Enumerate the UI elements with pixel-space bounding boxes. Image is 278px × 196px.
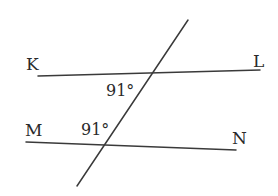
diagram-canvas: K L M N 91° 91° xyxy=(0,0,278,196)
label-k: K xyxy=(26,54,39,74)
geometry-diagram: K L M N 91° 91° xyxy=(0,0,278,196)
label-l: L xyxy=(253,51,264,71)
angle-label-lower: 91° xyxy=(81,120,109,139)
angle-label-upper: 91° xyxy=(106,81,134,100)
label-m: M xyxy=(25,120,42,140)
transversal-line xyxy=(77,20,188,186)
label-n: N xyxy=(232,128,247,148)
line-kl xyxy=(38,70,260,76)
line-mn xyxy=(26,142,236,150)
